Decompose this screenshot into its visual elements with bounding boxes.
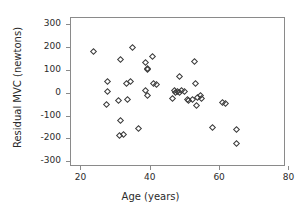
y-tick-label: 0: [0, 88, 61, 97]
data-point: [181, 88, 188, 95]
data-point: [117, 116, 124, 123]
y-tick-label: 300: [0, 19, 61, 28]
data-point: [209, 124, 216, 131]
y-tick-label: 200: [0, 42, 61, 51]
data-point: [144, 92, 151, 99]
data-point: [193, 102, 200, 109]
x-tick-label: 80: [273, 173, 301, 182]
x-tick-mark: [150, 166, 151, 170]
x-tick-label: 20: [65, 173, 95, 182]
scatter-plot-figure: Residual MVC (newtons) 3002001000-100-20…: [0, 0, 301, 213]
y-tick-label: 100: [0, 65, 61, 74]
data-point: [115, 97, 122, 104]
data-point: [198, 95, 205, 102]
data-point: [124, 96, 131, 103]
y-tick-label: -100: [0, 111, 61, 120]
x-tick-mark: [219, 166, 220, 170]
x-tick-mark: [80, 166, 81, 170]
data-point: [117, 56, 124, 63]
data-point: [233, 140, 240, 147]
data-point: [90, 48, 97, 55]
data-point: [135, 125, 142, 132]
data-point: [176, 73, 183, 80]
data-point: [192, 80, 199, 87]
data-point: [222, 99, 229, 106]
data-point: [104, 88, 111, 95]
data-point: [104, 78, 111, 85]
x-tick-mark: [288, 166, 289, 170]
data-points-layer: [71, 18, 284, 165]
plot-area: [70, 17, 285, 166]
y-tick-label: -200: [0, 133, 61, 142]
y-tick-label: -300: [0, 156, 61, 165]
x-tick-label: 60: [204, 173, 234, 182]
data-point: [233, 126, 240, 133]
data-point: [191, 58, 198, 65]
x-axis-label: Age (years): [0, 191, 301, 202]
data-point: [129, 44, 136, 51]
data-point: [103, 101, 110, 108]
data-point: [149, 53, 156, 60]
x-tick-label: 40: [135, 173, 165, 182]
